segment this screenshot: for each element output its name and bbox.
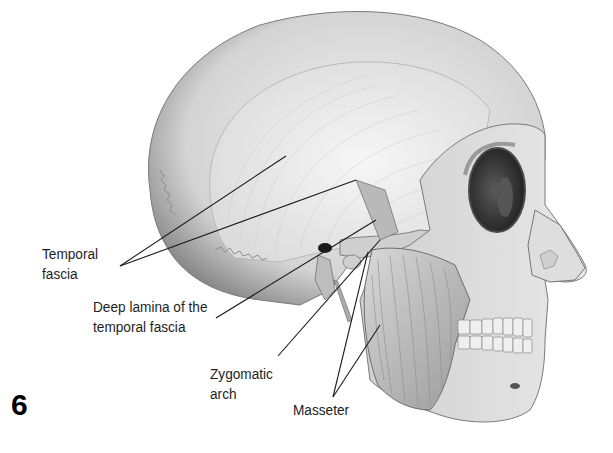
label-temporal-fascia: Temporal fascia xyxy=(42,244,98,284)
label-masseter: Masseter xyxy=(293,400,349,420)
mental-foramen xyxy=(510,383,520,389)
skull-illustration xyxy=(0,0,613,453)
styloid-process xyxy=(334,280,352,322)
anatomy-figure: Temporal fascia Deep lamina of the tempo… xyxy=(0,0,613,453)
orbit xyxy=(469,148,525,232)
label-zygomatic-arch: Zygomatic arch xyxy=(210,364,273,404)
label-deep-lamina: Deep lamina of the temporal fascia xyxy=(93,297,207,337)
figure-number: 6 xyxy=(11,388,28,422)
